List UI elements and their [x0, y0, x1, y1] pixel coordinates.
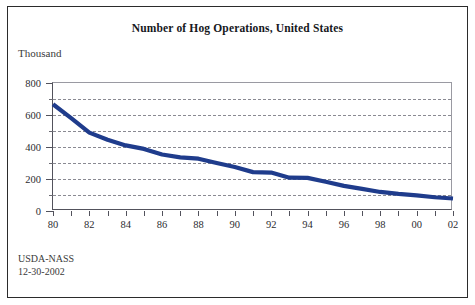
x-tick-label: 02	[439, 219, 467, 230]
x-tick	[362, 211, 363, 216]
x-tick-label: 80	[39, 219, 67, 230]
source-note: USDA-NASS 12-30-2002	[18, 252, 74, 278]
x-tick-label: 00	[403, 219, 431, 230]
chart-figure: Number of Hog Operations, United States …	[0, 0, 475, 305]
y-tick-label: 200	[1, 174, 41, 185]
y-tick-major	[46, 115, 53, 116]
series-hog-operations	[53, 104, 453, 198]
x-tick	[435, 211, 436, 216]
x-tick-label: 94	[294, 219, 322, 230]
x-tick	[271, 211, 272, 216]
x-tick	[217, 211, 218, 216]
x-tick	[53, 211, 54, 216]
x-tick	[108, 211, 109, 216]
x-tick	[180, 211, 181, 216]
y-tick-label: 800	[1, 78, 41, 89]
x-tick	[344, 211, 345, 216]
x-tick-label: 82	[75, 219, 103, 230]
y-tick-label: 400	[1, 142, 41, 153]
x-tick-label: 88	[184, 219, 212, 230]
page-title: Number of Hog Operations, United States	[0, 22, 475, 34]
x-tick	[71, 211, 72, 216]
x-tick	[144, 211, 145, 216]
x-tick-label: 96	[330, 219, 358, 230]
y-axis-unit-label: Thousand	[18, 47, 61, 59]
source-date: 12-30-2002	[18, 265, 74, 278]
x-tick	[126, 211, 127, 216]
plot-area: 0200400600800 808284868890929496980002	[52, 82, 452, 210]
x-tick	[417, 211, 418, 216]
y-tick-minor	[49, 131, 53, 132]
x-tick	[453, 211, 454, 216]
y-tick-minor	[49, 99, 53, 100]
x-tick-label: 90	[221, 219, 249, 230]
x-tick-label: 92	[257, 219, 285, 230]
x-tick	[198, 211, 199, 216]
y-tick-major	[46, 83, 53, 84]
y-tick-minor	[49, 163, 53, 164]
x-tick	[235, 211, 236, 216]
y-tick-label: 0	[1, 206, 41, 217]
x-tick	[89, 211, 90, 216]
source-agency: USDA-NASS	[18, 252, 74, 265]
x-tick	[326, 211, 327, 216]
x-tick	[253, 211, 254, 216]
x-tick-label: 98	[366, 219, 394, 230]
x-tick	[398, 211, 399, 216]
x-tick-label: 86	[148, 219, 176, 230]
x-tick	[162, 211, 163, 216]
y-tick-major	[46, 211, 53, 212]
x-tick-label: 84	[112, 219, 140, 230]
y-tick-label: 600	[1, 110, 41, 121]
y-tick-minor	[49, 195, 53, 196]
y-tick-major	[46, 147, 53, 148]
x-tick	[289, 211, 290, 216]
x-tick	[380, 211, 381, 216]
data-series-line	[53, 83, 453, 211]
y-tick-major	[46, 179, 53, 180]
x-tick	[308, 211, 309, 216]
